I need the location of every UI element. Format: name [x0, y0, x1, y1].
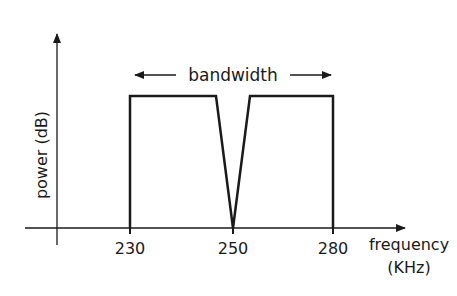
- x-axis-unit-label: (KHz): [387, 258, 430, 277]
- tick-label-280: 280: [318, 239, 349, 258]
- x-axis-label: frequency: [369, 235, 449, 254]
- spectrum-curve: [130, 96, 333, 228]
- tick-label-250: 250: [218, 239, 249, 258]
- bandwidth-label: bandwidth: [188, 65, 278, 85]
- bandwidth-diagram: bandwidth 230 250 280 frequency (KHz) po…: [0, 0, 457, 296]
- y-axis-label: power (dB): [32, 111, 51, 199]
- tick-label-230: 230: [115, 239, 146, 258]
